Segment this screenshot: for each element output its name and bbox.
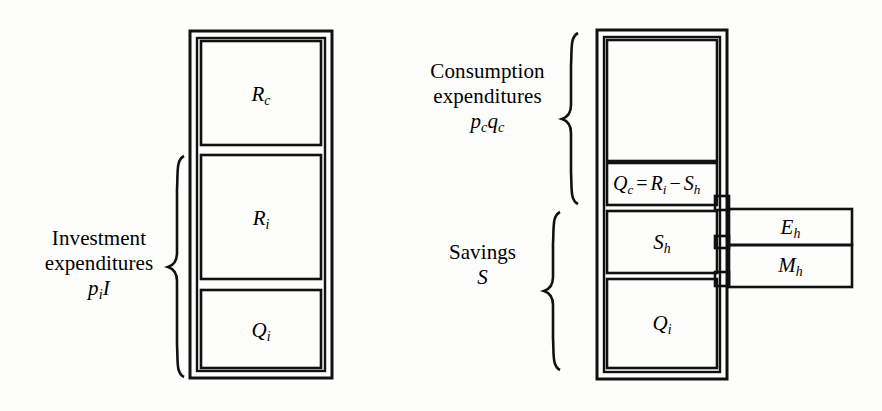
side-box-label-mh: Mh: [729, 253, 852, 280]
savings-label: Savings S: [420, 240, 545, 290]
left-box-label-rc: Rc: [201, 82, 321, 109]
consumption-expenditures-label: Consumption expenditures pcqc: [405, 59, 570, 135]
right-box-equation-qc: Qc=Ri−Sh: [613, 172, 700, 198]
savings-brace: [544, 212, 560, 370]
consumption-label-formula: pcqc: [405, 109, 570, 136]
right-box-top-empty: [607, 40, 717, 161]
investment-label-line1: Investment: [24, 226, 174, 251]
side-box-label-eh: Eh: [729, 215, 852, 242]
investment-expenditures-label: Investment expenditures piI: [24, 226, 174, 302]
savings-label-line2: S: [420, 265, 545, 290]
savings-label-line1: Savings: [420, 240, 545, 265]
consumption-label-line1: Consumption: [405, 59, 570, 84]
investment-label-line2: expenditures: [24, 251, 174, 276]
investment-label-formula: piI: [24, 276, 174, 303]
consumption-label-line2: expenditures: [405, 84, 570, 109]
right-box-label-sh: Sh: [607, 230, 717, 257]
left-box-label-ri: Ri: [201, 206, 321, 233]
left-box-label-qi: Qi: [201, 318, 321, 345]
right-box-label-qi: Qi: [607, 311, 717, 338]
diagram-canvas: Rc Ri Qi Investment expenditures piI Qc=…: [0, 0, 882, 411]
